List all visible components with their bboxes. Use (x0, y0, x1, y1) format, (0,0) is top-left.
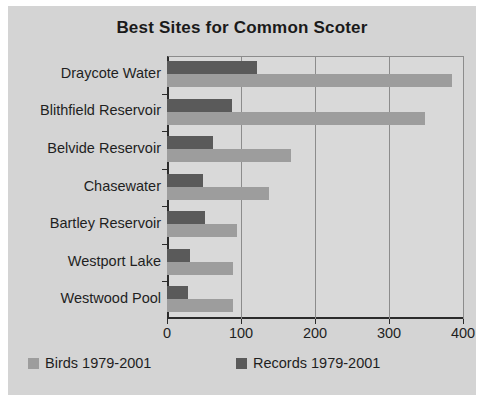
chart-legend: Birds 1979-2001 Records 1979-2001 (8, 355, 476, 379)
x-tick-label: 200 (295, 325, 335, 341)
legend-swatch-records-icon (236, 358, 247, 369)
gridline (315, 56, 316, 319)
legend-label-birds: Birds 1979-2001 (45, 355, 151, 371)
x-tick-mark (315, 319, 316, 324)
category-tick-mark (162, 94, 167, 95)
legend-item-birds: Birds 1979-2001 (28, 355, 151, 371)
bar-birds (167, 74, 452, 87)
category-label: Blithfield Reservoir (11, 102, 161, 118)
category-tick-mark (162, 206, 167, 207)
bar-birds (167, 299, 233, 312)
bar-records (167, 174, 203, 187)
bar-records (167, 61, 257, 74)
bar-records (167, 136, 213, 149)
category-label: Belvide Reservoir (11, 140, 161, 156)
category-tick-mark (162, 169, 167, 170)
x-tick-label: 300 (369, 325, 409, 341)
category-label: Westwood Pool (11, 290, 161, 306)
gridline (463, 56, 464, 319)
bar-birds (167, 224, 237, 237)
gridline (389, 56, 390, 319)
bar-records (167, 286, 188, 299)
category-tick-mark (162, 281, 167, 282)
category-label: Westport Lake (11, 253, 161, 269)
chart-container: Best Sites for Common Scoter Draycote Wa… (8, 6, 476, 395)
category-label: Draycote Water (11, 65, 161, 81)
bar-birds (167, 262, 233, 275)
bar-birds (167, 149, 291, 162)
category-label: Bartley Reservoir (11, 215, 161, 231)
chart-title: Best Sites for Common Scoter (8, 18, 476, 38)
x-tick-label: 0 (147, 325, 187, 341)
x-tick-mark (463, 319, 464, 324)
legend-label-records: Records 1979-2001 (253, 355, 380, 371)
x-tick-mark (241, 319, 242, 324)
category-tick-mark (162, 131, 167, 132)
category-tick-mark (162, 244, 167, 245)
bar-birds (167, 112, 425, 125)
bar-records (167, 211, 205, 224)
x-tick-label: 400 (443, 325, 483, 341)
x-tick-mark (167, 319, 168, 324)
bar-records (167, 99, 232, 112)
bar-birds (167, 187, 269, 200)
bar-records (167, 249, 190, 262)
x-tick-label: 100 (221, 325, 261, 341)
legend-item-records: Records 1979-2001 (236, 355, 380, 371)
plot-area (167, 56, 464, 319)
legend-swatch-birds-icon (28, 358, 39, 369)
category-label: Chasewater (11, 178, 161, 194)
x-tick-mark (389, 319, 390, 324)
